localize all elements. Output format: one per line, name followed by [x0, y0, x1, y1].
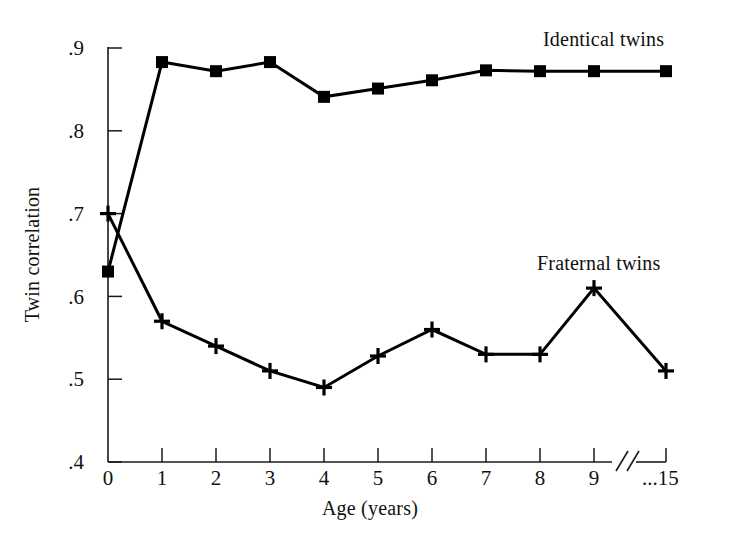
axis-ticks [108, 48, 666, 462]
series-line-fraternal [100, 206, 674, 396]
twin-correlation-chart: Twin correlation Age (years) .9 .8 .7 .6… [0, 0, 745, 547]
axis-break-icon [616, 451, 639, 471]
axis-lines [108, 47, 666, 462]
series-line-identical [102, 56, 672, 277]
plot-area [0, 0, 745, 547]
